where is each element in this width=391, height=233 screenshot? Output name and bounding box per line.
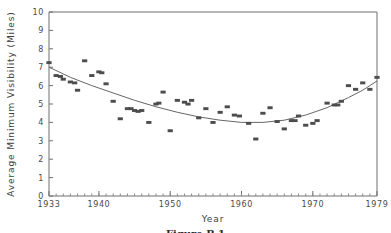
data-point <box>253 138 258 141</box>
y-tick-label: 9 <box>38 26 44 35</box>
data-point <box>267 106 272 109</box>
data-point <box>58 75 63 78</box>
data-point <box>335 104 340 107</box>
data-point <box>296 115 301 118</box>
data-point <box>353 88 358 91</box>
data-point <box>72 81 77 84</box>
data-point <box>168 129 173 132</box>
data-point <box>367 88 372 91</box>
data-point <box>139 109 144 112</box>
y-axis-ticks: 012345678910 <box>33 8 53 201</box>
data-point <box>310 122 315 125</box>
x-tick-label: 1940 <box>88 200 111 209</box>
y-tick-label: 1 <box>38 174 44 183</box>
data-point <box>175 99 180 102</box>
data-point <box>237 115 242 118</box>
data-point <box>118 117 123 120</box>
x-tick-label: 1979 <box>366 200 389 209</box>
data-point <box>160 91 165 94</box>
data-point <box>156 102 161 105</box>
x-tick-label: 1960 <box>230 200 253 209</box>
visibility-scatter-chart: 012345678910 193319401950196019701979 Av… <box>0 0 391 233</box>
x-axis-title: Year <box>201 214 225 224</box>
data-point <box>185 103 190 106</box>
data-point <box>46 61 51 64</box>
x-tick-label: 1970 <box>301 200 324 209</box>
data-point <box>324 102 329 105</box>
data-point <box>374 76 379 79</box>
data-point <box>196 116 201 119</box>
figure-caption: Figure B.1 <box>0 228 391 233</box>
data-point <box>225 105 230 108</box>
data-point <box>292 119 297 122</box>
data-point <box>146 121 151 124</box>
data-point <box>282 127 287 130</box>
data-point <box>210 121 215 124</box>
data-point <box>303 124 308 127</box>
data-point <box>360 81 365 84</box>
data-point <box>275 120 280 123</box>
figure-container: 012345678910 193319401950196019701979 Av… <box>0 0 391 233</box>
data-point <box>260 112 265 115</box>
data-point <box>99 71 104 74</box>
data-point <box>346 84 351 87</box>
data-point <box>189 99 194 102</box>
data-point <box>246 122 251 125</box>
data-point <box>111 100 116 103</box>
data-point-group <box>46 59 379 140</box>
y-tick-label: 5 <box>38 100 44 109</box>
y-tick-label: 6 <box>38 82 44 91</box>
x-tick-label: 1950 <box>159 200 182 209</box>
x-tick-label: 1933 <box>38 200 61 209</box>
y-tick-label: 4 <box>38 118 44 127</box>
data-point <box>315 119 320 122</box>
data-point <box>232 114 237 117</box>
data-point <box>75 89 80 92</box>
data-point <box>339 100 344 103</box>
y-tick-label: 10 <box>33 8 44 17</box>
data-point <box>103 82 108 85</box>
y-tick-label: 3 <box>38 137 44 146</box>
data-point <box>203 107 208 110</box>
data-point <box>82 59 87 62</box>
data-point <box>89 74 94 77</box>
y-tick-label: 8 <box>38 45 44 54</box>
y-tick-label: 7 <box>38 63 44 72</box>
trend-line <box>49 67 377 122</box>
y-axis-title: Average Minimum Visibility (Miles) <box>6 11 16 197</box>
y-tick-label: 2 <box>38 155 44 164</box>
data-point <box>61 78 66 81</box>
data-point <box>218 111 223 114</box>
